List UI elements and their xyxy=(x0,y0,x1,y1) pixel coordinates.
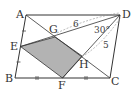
label-F: F xyxy=(58,79,66,90)
label-A: A xyxy=(15,8,25,21)
length-label-DH: 5 xyxy=(103,40,109,50)
diagram-canvas: A D B C E F G H 6 5 30° xyxy=(0,0,140,90)
label-E: E xyxy=(10,40,18,53)
length-label-DG: 6 xyxy=(73,19,79,29)
label-H: H xyxy=(79,58,89,71)
label-G: G xyxy=(49,23,58,36)
label-D: D xyxy=(122,8,131,21)
shaded-region-EGHF xyxy=(21,37,83,78)
label-B: B xyxy=(5,72,13,85)
angle-label-GDH: 30° xyxy=(94,25,110,35)
label-C: C xyxy=(111,75,119,88)
geometry-diagram: A D B C E F G H 6 5 30° xyxy=(0,0,140,90)
